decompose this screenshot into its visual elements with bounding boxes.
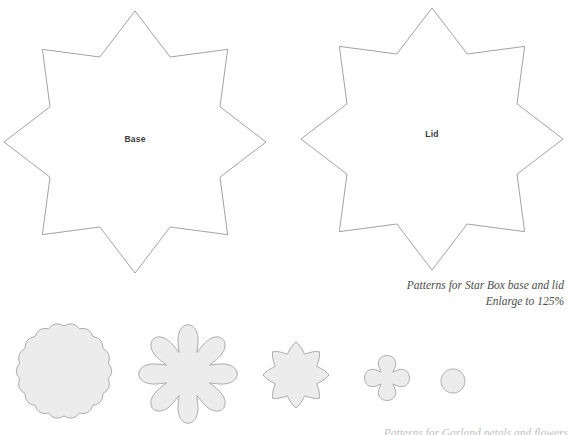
star-pattern-lid xyxy=(301,8,563,270)
scallop-pattern-small-circle xyxy=(441,369,465,393)
scallop-patterns-group xyxy=(16,324,465,423)
star-label-lid: Lid xyxy=(425,129,438,139)
caption-bottom-cropped: Patterns for Garland petals and flowers xyxy=(148,426,568,435)
pattern-sheet: Base Lid Patterns for Star Box base and … xyxy=(0,0,572,435)
caption-block: Patterns for Star Box base and lid Enlar… xyxy=(204,278,564,309)
pattern-artwork xyxy=(0,0,572,435)
caption-line-2: Enlarge to 125% xyxy=(204,294,564,310)
scallop-pattern-quatrefoil xyxy=(365,356,410,401)
star-label-base: Base xyxy=(124,134,145,144)
scallop-pattern-large-scalloped-circle xyxy=(16,324,112,418)
scallop-pattern-eight-lobe-flower xyxy=(139,325,238,424)
star-patterns-group xyxy=(4,8,563,273)
scallop-pattern-scalloped-octagon xyxy=(263,342,329,408)
caption-line-1: Patterns for Star Box base and lid xyxy=(204,278,564,294)
